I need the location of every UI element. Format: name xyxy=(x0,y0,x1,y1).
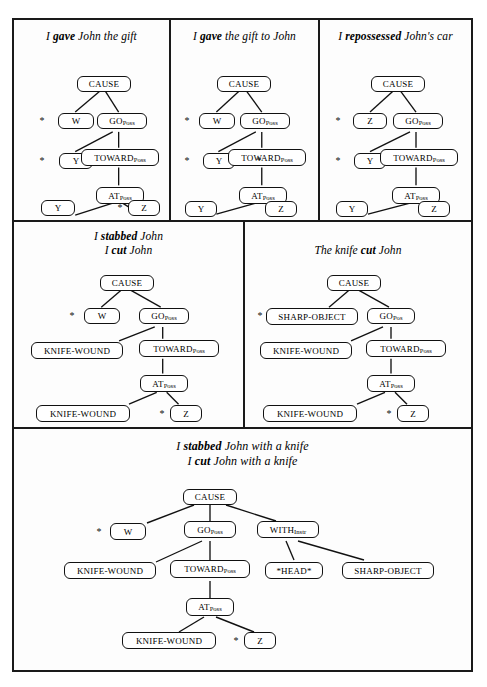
tree-with-knife: CAUSE W GOPoss WITHInstr KNIFE-WOUND TOW… xyxy=(14,429,471,670)
tree-edges xyxy=(14,222,243,427)
node-w: W xyxy=(58,113,94,129)
node-toward-poss: TOWARDPoss xyxy=(81,149,159,166)
node-z-leaf: Z xyxy=(265,201,297,217)
panel-give-to-john: I gave the gift to John CAUSE W xyxy=(171,20,320,220)
node-knife-wound-2: KNIFE-WOUND xyxy=(122,632,216,649)
node-label: CAUSE xyxy=(89,79,120,89)
tree-repossessed: CAUSE Z GOPoss Y TOWARDPoss ATPoss xyxy=(320,20,471,220)
star-marker-z-leaf: * xyxy=(387,409,392,419)
node-label: Z xyxy=(431,204,437,214)
star-marker-toward: * xyxy=(257,156,262,166)
star-marker-z-leaf: * xyxy=(160,409,165,419)
node-label: Z xyxy=(410,409,416,419)
node-toward-poss: TOWARDPoss xyxy=(170,560,250,578)
node-go-poss: GOPoss xyxy=(393,113,443,129)
star-marker-sharp-object: * xyxy=(258,311,263,321)
star-marker-w: * xyxy=(40,116,45,126)
node-label: TOWARD xyxy=(153,344,193,354)
node-cause: CAUSE xyxy=(327,275,381,291)
node-label: CAUSE xyxy=(229,79,260,89)
node-label: Z xyxy=(278,204,284,214)
node-z-leaf: Z xyxy=(170,405,202,422)
node-toward-poss: TOWARDPoss xyxy=(366,340,446,357)
node-sharp-object: SHARP-OBJECT xyxy=(342,562,434,579)
node-go-pos: GOPos xyxy=(367,308,415,324)
node-label: GO xyxy=(197,525,210,535)
star-marker-y-mid: * xyxy=(40,156,45,166)
node-go-poss: GOPoss xyxy=(184,521,236,538)
node-subscript: Poss xyxy=(433,156,445,163)
node-z-leaf: Z xyxy=(418,201,450,217)
panel-knife-cut: The knife cut John CAUSE SHARP-OBJECT xyxy=(245,222,471,427)
node-cause: CAUSE xyxy=(217,76,271,92)
node-subscript: Poss xyxy=(164,382,176,389)
node-label: *HEAD* xyxy=(276,566,311,576)
node-label: Z xyxy=(367,116,373,126)
panel-stabbed-cut: I stabbed John I cut John CAUSE xyxy=(14,222,245,427)
node-label: W xyxy=(213,116,222,126)
node-at-poss: ATPoss xyxy=(367,375,415,392)
node-sharp-object: SHARP-OBJECT xyxy=(266,308,358,325)
node-label: AT xyxy=(152,379,163,389)
node-cause: CAUSE xyxy=(183,489,237,505)
tree-knife-cut: CAUSE SHARP-OBJECT GOPos KNIFE-WOUND TOW… xyxy=(245,222,471,427)
node-label: TOWARD xyxy=(184,564,224,574)
panel-with-knife: I stabbed John with a knife I cut John w… xyxy=(14,429,471,670)
node-knife-wound-2: KNIFE-WOUND xyxy=(36,405,130,422)
tree-give-to-john: CAUSE W GOPoss Y TOWARDPoss ATPoss xyxy=(171,20,318,220)
node-w: W xyxy=(84,308,120,324)
node-toward-poss: TOWARDPoss xyxy=(228,149,306,166)
node-cause: CAUSE xyxy=(100,275,154,291)
node-subscript: Poss xyxy=(165,314,177,321)
star-marker-z-leaf: * xyxy=(234,636,239,646)
node-label: Y xyxy=(216,156,223,166)
node-label: WITH xyxy=(270,525,294,535)
node-knife-wound-1: KNIFE-WOUND xyxy=(260,342,352,359)
node-label: CAUSE xyxy=(383,79,414,89)
node-label: AT xyxy=(379,379,390,389)
figure-row-1: I gave John the gift CAUSE W xyxy=(14,20,471,222)
node-go-poss: GOPoss xyxy=(240,113,290,129)
node-cause: CAUSE xyxy=(77,76,131,92)
node-label: W xyxy=(124,527,133,537)
node-go-poss: GOPoss xyxy=(97,113,147,129)
node-subscript: Poss xyxy=(211,528,223,535)
node-toward-poss: TOWARDPoss xyxy=(139,340,219,357)
node-label: GO xyxy=(380,311,393,321)
node-subscript: Poss xyxy=(224,567,236,574)
node-label: KNIFE-WOUND xyxy=(277,409,343,419)
node-subscript: Poss xyxy=(120,194,132,201)
node-at-poss: ATPoss xyxy=(140,375,188,392)
node-toward-poss: TOWARDPoss xyxy=(380,149,458,166)
node-subscript: Poss xyxy=(134,156,146,163)
node-knife-wound-1: KNIFE-WOUND xyxy=(31,342,123,359)
node-y-leaf: Y xyxy=(185,201,217,217)
node-label: GO xyxy=(252,116,265,126)
panel-give-john: I gave John the gift CAUSE W xyxy=(14,20,171,220)
star-marker-w: * xyxy=(185,116,190,126)
node-z-leaf: Z xyxy=(397,405,429,422)
node-knife-wound-1: KNIFE-WOUND xyxy=(64,562,156,579)
node-label: TOWARD xyxy=(380,344,420,354)
node-z-leaf: Z xyxy=(244,632,276,649)
figure-row-2: I stabbed John I cut John CAUSE xyxy=(14,222,471,429)
node-label: KNIFE-WOUND xyxy=(50,409,116,419)
node-label: KNIFE-WOUND xyxy=(273,346,339,356)
star-marker-y-mid: * xyxy=(185,156,190,166)
node-z-top: Z xyxy=(353,113,387,129)
node-y-leaf: Y xyxy=(41,200,75,216)
node-label: CAUSE xyxy=(339,278,370,288)
node-label: SHARP-OBJECT xyxy=(278,312,345,322)
node-label: GO xyxy=(151,311,164,321)
figure-row-3: I stabbed John with a knife I cut John w… xyxy=(14,429,471,670)
node-go-poss: GOPoss xyxy=(139,308,189,324)
node-at-poss: ATPoss xyxy=(186,598,234,616)
node-cause: CAUSE xyxy=(371,76,425,92)
panel-repossessed: I repossessed John's car CAUSE Z xyxy=(320,20,471,220)
node-subscript: Poss xyxy=(210,605,222,612)
star-marker-y-mid: * xyxy=(336,156,341,166)
node-head: *HEAD* xyxy=(265,562,323,579)
node-subscript: Poss xyxy=(281,156,293,163)
node-knife-wound-2: KNIFE-WOUND xyxy=(263,405,357,422)
node-label: KNIFE-WOUND xyxy=(44,346,110,356)
